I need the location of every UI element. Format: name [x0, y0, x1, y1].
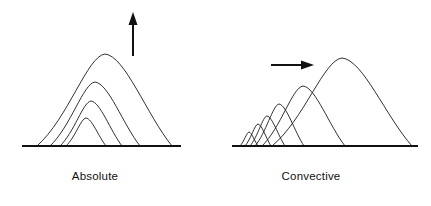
- absolute-wave-packets: [37, 54, 172, 146]
- panel-absolute: Absolute: [22, 12, 181, 182]
- arch-4: [37, 54, 172, 146]
- instability-diagram-svg: Absolute Convective: [0, 0, 431, 206]
- arch-4: [255, 104, 304, 146]
- arch-2: [60, 101, 122, 146]
- rightward-arrow-head: [301, 61, 314, 70]
- arch-1: [66, 118, 106, 146]
- rightward-arrow: [271, 61, 314, 70]
- caption-convective: Convective: [282, 170, 341, 182]
- upward-arrow-head: [129, 12, 138, 25]
- caption-absolute: Absolute: [72, 170, 118, 182]
- arch-6: [272, 58, 412, 146]
- upward-arrow: [129, 12, 138, 56]
- convective-wave-packets: [240, 58, 412, 146]
- panel-convective: Convective: [232, 58, 418, 182]
- instability-figure: Absolute Convective: [0, 0, 431, 206]
- arch-5: [262, 86, 345, 146]
- arch-3: [50, 82, 140, 146]
